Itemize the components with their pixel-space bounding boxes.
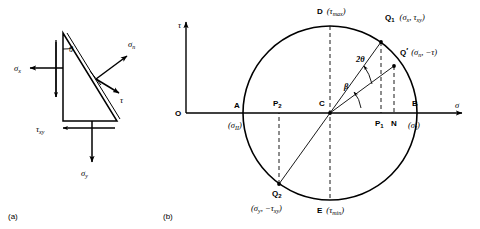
- panel-a-group: θ σx σy σn τ τxy (a): [8, 33, 135, 221]
- point-P2-label: P2: [273, 99, 282, 109]
- panel-b-group: τ σ O A (σII) B (σI) C D(τmax) E(τmin): [163, 6, 462, 221]
- two-theta-label: 2θ: [355, 54, 365, 64]
- point-C-dot: [328, 111, 332, 115]
- tau-axis-label: τ: [178, 20, 182, 30]
- point-P1-label: P1: [375, 119, 384, 129]
- point-E-label: E(τmin): [317, 205, 344, 216]
- sigma-n-label: σn: [128, 39, 135, 50]
- panel-a-caption: (a): [8, 212, 18, 221]
- sigma-n-arrow: [96, 56, 127, 79]
- two-theta-angle-arc: [364, 66, 372, 84]
- sigma-y-label: σy: [81, 168, 88, 179]
- sigma-x-label: σx: [14, 63, 21, 74]
- theta-label: θ: [69, 44, 73, 54]
- point-A-value: (σII): [228, 120, 242, 131]
- point-Q1-dot: [379, 40, 383, 44]
- point-C-label: C: [319, 99, 325, 108]
- origin-label: O: [175, 109, 181, 118]
- point-B-value: (σI): [408, 120, 420, 131]
- point-Q2-value: (σy, −τxy): [251, 203, 282, 214]
- point-D-label: D(τmax): [317, 6, 346, 17]
- beta-label: β: [343, 81, 349, 91]
- mohr-circle-figure: θ σx σy σn τ τxy (a): [0, 0, 480, 229]
- tau-label: τ: [120, 95, 124, 105]
- point-B-label: B: [412, 99, 418, 108]
- tau-xy-label: τxy: [36, 124, 45, 135]
- point-N-label: N: [391, 119, 397, 128]
- figure-root: θ σx σy σn τ τxy (a): [0, 0, 480, 229]
- plane-normal-tick: [90, 71, 101, 85]
- radius-C-Qprime: [330, 66, 394, 113]
- sigma-axis-label: σ: [455, 100, 460, 110]
- point-Qprime-dot: [392, 64, 396, 68]
- panel-b-caption: (b): [163, 212, 173, 221]
- point-Q1-label: Q1(σx, τxy): [385, 12, 425, 23]
- point-Q2-dot: [277, 182, 281, 186]
- point-Q2-label: Q2: [272, 189, 282, 199]
- point-Qprime-label: Q′(σn, −τ): [400, 46, 437, 58]
- point-A-label: A: [234, 101, 240, 110]
